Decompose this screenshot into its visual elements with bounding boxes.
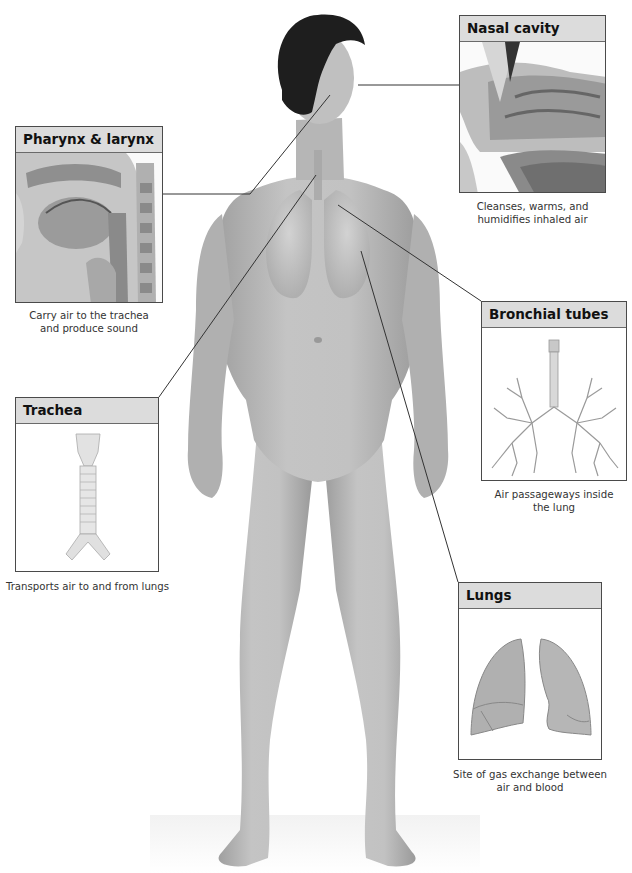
trachea-illustration	[16, 424, 159, 572]
lungs-box: Lungs	[458, 582, 602, 760]
body	[188, 14, 449, 866]
nasal-cavity-illustration	[460, 42, 606, 193]
nasal-cavity-box: Nasal cavity	[459, 15, 606, 193]
lungs-caption: Site of gas exchange between air and blo…	[448, 768, 612, 794]
pharynx-larynx-illustration	[16, 153, 163, 303]
bronchial-tubes-box: Bronchial tubes	[481, 301, 627, 481]
respiratory-diagram: Nasal cavity Cleanses, warms, and humidi…	[0, 0, 632, 873]
nasal-cavity-caption: Cleanses, warms, and humidifies inhaled …	[459, 200, 606, 226]
pharynx-larynx-box: Pharynx & larynx	[15, 126, 163, 303]
pharynx-larynx-title: Pharynx & larynx	[16, 127, 162, 153]
trachea-box: Trachea	[15, 397, 159, 572]
trachea-caption: Transports air to and from lungs	[0, 580, 175, 593]
bronchial-tubes-illustration	[482, 328, 627, 481]
bronchial-tubes-title: Bronchial tubes	[482, 302, 626, 328]
pharynx-larynx-caption: Carry air to the trachea and produce sou…	[15, 309, 163, 335]
trachea-title: Trachea	[16, 398, 158, 424]
lungs-title: Lungs	[459, 583, 601, 609]
nasal-cavity-title: Nasal cavity	[460, 16, 605, 42]
bronchial-tubes-caption: Air passageways inside the lung	[481, 488, 627, 514]
floor-shadow	[150, 815, 480, 873]
lungs-illustration	[459, 609, 602, 760]
